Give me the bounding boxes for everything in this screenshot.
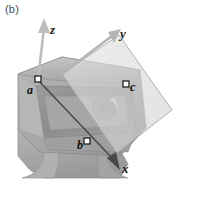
figure-graphic [0, 0, 198, 203]
axis-label-y: y [120, 27, 126, 40]
point-marker-c [123, 81, 129, 87]
figure-panel-b: (b) z y x a b c [0, 0, 198, 203]
point-label-c: c [130, 81, 135, 93]
axis-label-z: z [50, 23, 55, 36]
axis-label-x: x [122, 162, 129, 175]
point-label-b: b [77, 139, 83, 151]
point-marker-a [35, 76, 41, 82]
axis-z-arrowhead [38, 18, 50, 33]
point-label-a: a [27, 84, 33, 96]
panel-label: (b) [5, 3, 19, 15]
point-marker-b [84, 138, 90, 144]
